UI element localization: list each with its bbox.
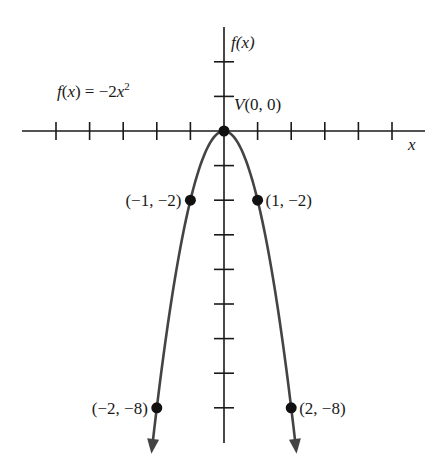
function-label-exponent: 2 [124,80,130,92]
point-label: (−2, −8) [92,399,148,418]
parabola-chart: V(0, 0)(−1, −2)(1, −2)(−2, −8)(2, −8) f(… [0,0,440,467]
arrowhead-right-icon [289,438,301,454]
data-point [151,402,162,413]
point-label: (2, −8) [299,399,345,418]
point-label: V(0, 0) [234,95,281,114]
function-label: f(x) = −2x2 [57,80,130,101]
y-axis-label: f(x) [231,33,255,52]
data-point [185,195,196,206]
point-label: (1, −2) [266,191,312,210]
data-point [219,126,230,137]
point-label: (−1, −2) [125,191,181,210]
data-point [286,402,297,413]
labeled-points: V(0, 0)(−1, −2)(1, −2)(−2, −8)(2, −8) [92,95,346,418]
arrowhead-left-icon [147,438,159,454]
data-point [252,195,263,206]
x-axis-label: x [407,135,416,154]
